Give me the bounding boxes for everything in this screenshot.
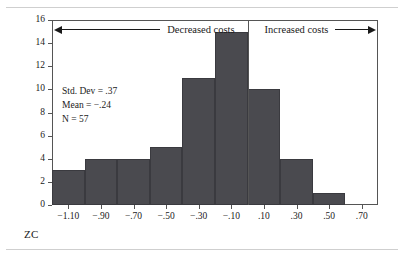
y-tick (48, 89, 52, 90)
y-tick (48, 66, 52, 67)
x-tick (231, 205, 232, 209)
x-tick (68, 205, 69, 209)
y-tick (48, 113, 52, 114)
x-tick (101, 205, 102, 209)
y-tick-label: 8 (40, 108, 45, 118)
y-tick (48, 159, 52, 160)
arrow-left-icon (54, 26, 62, 34)
arrow-right-icon (368, 26, 376, 34)
x-tick-label: .50 (323, 212, 335, 222)
stat-std-dev: Std. Dev = .37 (62, 84, 117, 98)
histogram-bar (150, 147, 183, 205)
histogram-bar (182, 78, 215, 205)
x-tick (199, 205, 200, 209)
y-tick-label: 16 (36, 15, 46, 25)
x-tick-label: −.30 (190, 212, 207, 222)
x-tick-label: −.50 (157, 212, 174, 222)
bottom-divider-rule (6, 249, 398, 250)
histogram-bar (248, 89, 281, 205)
annotation-decreased-costs: Decreased costs (54, 22, 248, 37)
y-tick-label: 10 (36, 85, 46, 95)
x-tick-label: −1.10 (57, 212, 79, 222)
histogram-bar (280, 159, 313, 205)
y-tick-label: 6 (40, 131, 45, 141)
x-tick (166, 205, 167, 209)
histogram-figure: 0246810121416 −1.10−.90−.70−.50−.30−.10.… (0, 0, 404, 256)
histogram-bar (52, 170, 85, 205)
x-tick-label: −.90 (92, 212, 109, 222)
annotation-line-left (62, 29, 160, 30)
histogram-bar (117, 159, 150, 205)
x-tick-label: .30 (291, 212, 303, 222)
histogram-bar (85, 159, 118, 205)
annotation-line-right (335, 29, 368, 30)
y-tick-label: 0 (40, 200, 45, 210)
x-tick (329, 205, 330, 209)
annotation-label-increased: Increased costs (258, 24, 336, 35)
top-divider-rule (6, 7, 398, 8)
x-tick-label: −.70 (125, 212, 142, 222)
x-tick (362, 205, 363, 209)
x-tick (264, 205, 265, 209)
x-tick-label: .10 (258, 212, 270, 222)
stat-n: N = 57 (62, 112, 117, 126)
statistics-annotation: Std. Dev = .37 Mean = −.24 N = 57 (62, 84, 117, 126)
annotation-increased-costs: Increased costs (248, 22, 376, 37)
annotation-label-decreased: Decreased costs (160, 24, 241, 35)
y-tick (48, 136, 52, 137)
y-tick-label: 4 (40, 154, 45, 164)
y-tick-label: 2 (40, 177, 45, 187)
y-tick (48, 20, 52, 21)
y-tick (48, 43, 52, 44)
x-axis-title: ZC (24, 228, 39, 240)
histogram-bar (313, 193, 346, 205)
y-tick-label: 12 (36, 62, 46, 72)
x-tick-label: −.10 (223, 212, 240, 222)
x-tick (134, 205, 135, 209)
stat-mean: Mean = −.24 (62, 98, 117, 112)
y-tick-label: 14 (36, 38, 46, 48)
y-tick (48, 205, 52, 206)
zero-divider-line (248, 20, 249, 205)
x-tick (297, 205, 298, 209)
x-tick-label: .70 (356, 212, 368, 222)
histogram-bar (215, 32, 248, 205)
